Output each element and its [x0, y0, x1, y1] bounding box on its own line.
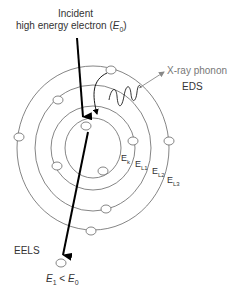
- electron: [128, 137, 138, 145]
- incident-label-line1: Incident: [58, 9, 93, 19]
- shell-l1: [51, 106, 135, 190]
- eels-label: EELS: [14, 246, 40, 256]
- electron-shells: [17, 66, 169, 230]
- incident-label-line2: high energy electron (E0): [16, 21, 127, 33]
- shell-label-l1: EL1: [135, 160, 148, 171]
- shell-k: [65, 118, 121, 178]
- shell-l3: [17, 66, 169, 230]
- shell-label-k: Ek: [121, 154, 130, 165]
- xray-label: X-ray phonon: [167, 66, 227, 76]
- electron: [164, 137, 174, 145]
- electron: [53, 96, 63, 104]
- incident-beam-arrow: [77, 38, 83, 117]
- shell-label-l2: EL2: [152, 167, 165, 178]
- shell-l2: [35, 85, 151, 211]
- electron: [101, 205, 111, 213]
- electron: [14, 133, 24, 141]
- electron: [98, 167, 108, 175]
- scattered-beam-arrow: [63, 132, 88, 255]
- eds-label: EDS: [182, 82, 203, 92]
- electron: [86, 227, 96, 235]
- xray-arrow: [139, 72, 164, 88]
- energy-relation: E1 < E0: [46, 274, 79, 286]
- electron: [81, 122, 91, 130]
- electron: [52, 162, 62, 170]
- electron: [106, 66, 116, 74]
- scattered-electron: [56, 259, 66, 267]
- shell-label-l3: EL3: [167, 176, 180, 187]
